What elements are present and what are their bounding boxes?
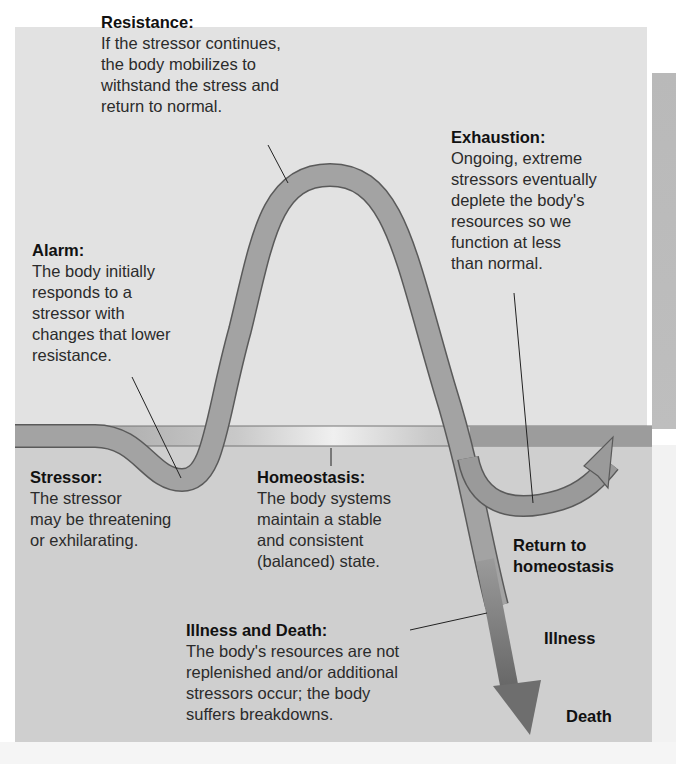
illness-death-body: The body's resources are not replenished… xyxy=(186,641,399,725)
alarm-annotation: Alarm: The body initially responds to a … xyxy=(32,240,171,366)
stressor-body: The stressor may be threatening or exhil… xyxy=(30,488,171,551)
homeostasis-title: Homeostasis: xyxy=(257,467,391,488)
exhaustion-body: Ongoing, extreme stressors eventually de… xyxy=(451,148,597,274)
stressor-title: Stressor: xyxy=(30,467,171,488)
death-label: Death xyxy=(566,706,612,727)
resistance-title: Resistance: xyxy=(101,12,281,33)
exhaustion-annotation: Exhaustion: Ongoing, extreme stressors e… xyxy=(451,127,597,274)
resistance-annotation: Resistance: If the stressor continues, t… xyxy=(101,12,281,117)
return-to-homeostasis-label: Return to homeostasis xyxy=(513,535,614,577)
return-arrow xyxy=(468,437,613,506)
alarm-body: The body initially responds to a stresso… xyxy=(32,261,171,366)
gas-diagram: Resistance: If the stressor continues, t… xyxy=(0,0,676,764)
illness-death-annotation: Illness and Death: The body's resources … xyxy=(186,620,399,725)
homeostasis-body: The body systems maintain a stable and c… xyxy=(257,488,391,572)
stressor-annotation: Stressor: The stressor may be threatenin… xyxy=(30,467,171,551)
illness-label: Illness xyxy=(544,628,595,649)
illness-death-arrow xyxy=(485,560,541,735)
homeostasis-annotation: Homeostasis: The body systems maintain a… xyxy=(257,467,391,572)
illness-death-title: Illness and Death: xyxy=(186,620,399,641)
exhaustion-title: Exhaustion: xyxy=(451,127,597,148)
alarm-title: Alarm: xyxy=(32,240,171,261)
resistance-body: If the stressor continues, the body mobi… xyxy=(101,33,281,117)
